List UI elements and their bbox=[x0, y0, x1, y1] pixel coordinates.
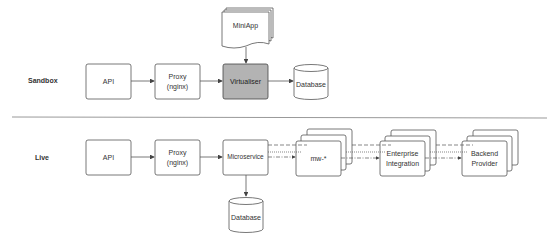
section-separator bbox=[12, 117, 547, 118]
live-api-label: API bbox=[86, 140, 131, 175]
backend-line1: Backend bbox=[471, 149, 498, 158]
backend-line2: Provider bbox=[471, 159, 497, 168]
diagram-canvas bbox=[0, 0, 557, 247]
sandbox-api-label: API bbox=[86, 64, 131, 99]
section-label-sandbox: Sandbox bbox=[28, 77, 58, 84]
enterprise-integration-label: Enterprise Integration bbox=[380, 141, 425, 176]
sandbox-database-label: Database bbox=[294, 72, 328, 98]
microservice-label: Microservice bbox=[223, 140, 268, 175]
proxy-line2: (nginx) bbox=[167, 82, 188, 91]
proxy-line1: Proxy bbox=[169, 72, 187, 81]
live-database-label: Database bbox=[229, 205, 263, 231]
sandbox-proxy-label: Proxy (nginx) bbox=[155, 64, 200, 99]
backend-provider-label: Backend Provider bbox=[462, 141, 507, 176]
proxy-line2: (nginx) bbox=[167, 158, 188, 167]
section-label-live: Live bbox=[35, 154, 49, 161]
enterprise-line1: Enterprise bbox=[387, 149, 419, 158]
proxy-line1: Proxy bbox=[169, 148, 187, 157]
mw-label: mw-* bbox=[296, 141, 341, 176]
enterprise-line2: Integration bbox=[386, 159, 419, 168]
miniapp-label: MiniApp bbox=[222, 12, 269, 40]
live-proxy-label: Proxy (nginx) bbox=[155, 140, 200, 175]
virtualiser-label: Virtualiser bbox=[223, 64, 268, 99]
